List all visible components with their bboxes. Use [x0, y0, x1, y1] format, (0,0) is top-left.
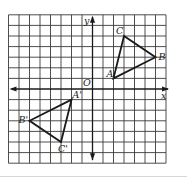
vertex-label-c-prime: C' [58, 143, 68, 154]
bottom-divider [0, 176, 187, 177]
y-axis-arrow-down-icon [90, 153, 95, 160]
y-axis-label: y [83, 15, 90, 26]
vertex-label-b-prime: B' [18, 114, 29, 125]
vertex-label-a: A [106, 68, 114, 79]
y-axis-arrow-up-icon [90, 16, 95, 23]
x-axis-arrow-left-icon [10, 86, 17, 91]
x-axis-label: x [161, 90, 167, 101]
origin-label: O [83, 77, 91, 88]
coordinate-plane-svg: x y O A B C A' B' C' [0, 0, 187, 181]
vertex-label-a-prime: A' [72, 89, 82, 100]
coordinate-plane-figure: x y O A B C A' B' C' [0, 0, 187, 181]
vertex-label-c: C [116, 25, 124, 36]
vertex-label-b: B [158, 51, 166, 62]
